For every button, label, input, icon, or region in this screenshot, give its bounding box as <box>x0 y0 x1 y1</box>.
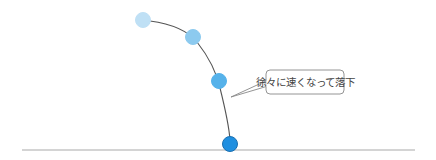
ball-2 <box>186 30 201 45</box>
ball-1 <box>136 13 151 28</box>
ball-4 <box>223 137 238 152</box>
balls <box>136 13 238 152</box>
callout: 徐々に速くなって落下 <box>231 70 355 97</box>
falling-ball-diagram: 徐々に速くなって落下 <box>0 0 436 160</box>
callout-text: 徐々に速くなって落下 <box>256 76 355 88</box>
ball-3 <box>212 74 227 89</box>
